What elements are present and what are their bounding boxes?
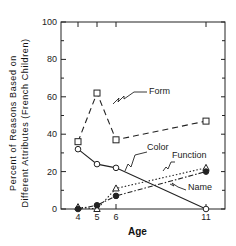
marker-color bbox=[75, 146, 81, 152]
marker-form bbox=[75, 139, 81, 145]
series-label-color: Color bbox=[147, 142, 169, 152]
marker-color bbox=[203, 206, 209, 212]
y-tick-label: 100 bbox=[42, 17, 57, 27]
y-tick-label: 20 bbox=[47, 167, 57, 177]
marker-name bbox=[94, 202, 100, 208]
marker-name bbox=[75, 206, 81, 212]
leader-color bbox=[125, 152, 147, 171]
marker-color bbox=[94, 161, 100, 167]
y-tick-label: 0 bbox=[52, 204, 57, 214]
x-tick-label: 4 bbox=[75, 212, 80, 222]
series-label-function: Function bbox=[172, 150, 207, 160]
marker-form bbox=[113, 137, 119, 143]
marker-form bbox=[94, 90, 100, 96]
x-tick-label: 5 bbox=[94, 212, 99, 222]
marker-name bbox=[113, 193, 119, 199]
marker-name bbox=[203, 169, 209, 175]
marker-form bbox=[203, 118, 209, 124]
y-axis-label: Percent of Reasons Based on Different At… bbox=[7, 33, 37, 213]
y-tick-label: 40 bbox=[47, 129, 57, 139]
leader-function bbox=[163, 162, 175, 171]
series-label-name: Name bbox=[188, 182, 212, 192]
series-label-form: Form bbox=[149, 86, 170, 96]
x-tick-label: 11 bbox=[201, 212, 210, 222]
x-tick-label: 6 bbox=[113, 212, 118, 222]
y-axis-label-line2: Different Attributes (French Children) bbox=[19, 33, 31, 213]
leader-name bbox=[170, 183, 186, 190]
y-tick-label: 80 bbox=[47, 54, 57, 64]
marker-color bbox=[113, 165, 119, 171]
plot-frame bbox=[61, 22, 225, 209]
series-labels: FormColorFunctionName bbox=[113, 86, 212, 192]
leader-form bbox=[113, 92, 147, 104]
y-axis-label-line1: Percent of Reasons Based on bbox=[7, 33, 19, 213]
y-tick-label: 60 bbox=[47, 92, 57, 102]
series-line-form bbox=[78, 93, 206, 142]
x-axis-label: Age bbox=[128, 226, 147, 237]
